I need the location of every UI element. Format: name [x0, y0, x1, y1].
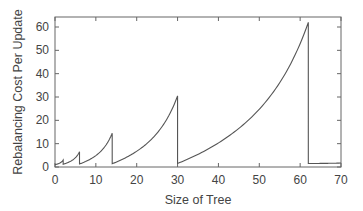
- x-tick-label: 20: [130, 173, 144, 187]
- y-tick-label: 0: [42, 160, 49, 174]
- x-tick-label: 60: [293, 173, 307, 187]
- y-tick-label: 60: [36, 20, 50, 34]
- y-tick-label: 30: [36, 90, 50, 104]
- x-tick-label: 50: [253, 173, 267, 187]
- y-tick-label: 10: [36, 137, 50, 151]
- plot-frame: [55, 17, 341, 167]
- chart: 010203040506070 0102030405060 Size of Tr…: [0, 0, 363, 211]
- x-tick-label: 40: [212, 173, 226, 187]
- y-tick-label: 20: [36, 113, 50, 127]
- y-axis-title: Rebalancing Cost Per Update: [11, 9, 25, 174]
- x-tick-label: 70: [334, 173, 348, 187]
- x-axis-title: Size of Tree: [165, 193, 232, 207]
- y-axis-ticks: 0102030405060: [36, 20, 341, 174]
- x-axis-ticks: 010203040506070: [52, 17, 348, 187]
- y-tick-label: 40: [36, 67, 50, 81]
- y-tick-label: 50: [36, 43, 50, 57]
- x-tick-label: 0: [52, 173, 59, 187]
- x-tick-label: 30: [171, 173, 185, 187]
- cost-line: [55, 22, 341, 164]
- x-tick-label: 10: [89, 173, 103, 187]
